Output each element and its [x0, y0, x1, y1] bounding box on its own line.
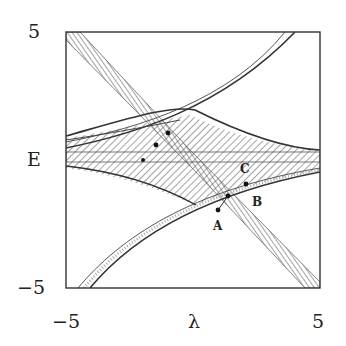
point-label-c: C [240, 163, 250, 175]
point-c [244, 182, 249, 187]
y-axis-label: E [27, 150, 41, 169]
lower-band [66, 162, 320, 205]
plot-canvas [0, 0, 346, 346]
point-label-b: B [252, 196, 262, 208]
point-upper-2 [154, 143, 159, 148]
y-tick-top: 5 [28, 22, 40, 41]
plot-area [66, 32, 320, 288]
x-axis-label: λ [188, 312, 200, 331]
x-tick-left: −5 [52, 312, 80, 331]
horizontal-band [66, 152, 320, 162]
point-label-a: A [213, 220, 222, 232]
figure: 5 E −5 −5 λ 5 A B C [0, 0, 346, 346]
x-tick-right: 5 [312, 312, 324, 331]
y-tick-bottom: −5 [17, 278, 45, 297]
point-upper-3 [141, 158, 145, 162]
point-upper-1 [166, 131, 171, 136]
